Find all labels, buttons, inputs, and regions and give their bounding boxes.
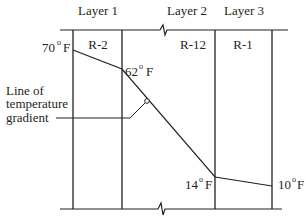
temp-label-62: 62 o F [125, 62, 153, 79]
wall-temperature-gradient-diagram: Layer 1 Layer 2 Layer 3 R-2 R-12 R-1 [0, 0, 306, 222]
callout-line-2: temperature [6, 96, 68, 111]
layer-3-label: Layer 3 [224, 3, 264, 18]
gradient-marker-circle [145, 99, 150, 104]
r-value-layer-1: R-2 [88, 37, 108, 52]
temp-label-14: 14 o F [185, 175, 212, 192]
svg-text:F: F [297, 177, 304, 192]
layer-1-label: Layer 1 [78, 3, 118, 18]
top-boundary-line [60, 25, 288, 35]
svg-text:o: o [292, 175, 296, 184]
svg-text:14: 14 [185, 177, 199, 192]
callout-leader-line [56, 103, 145, 118]
r-value-layer-2: R-12 [180, 37, 206, 52]
svg-text:70: 70 [42, 40, 55, 55]
r-value-layer-3: R-1 [233, 37, 253, 52]
svg-text:F: F [63, 40, 70, 55]
svg-text:62: 62 [125, 64, 138, 79]
temp-label-10: 10 o F [278, 175, 304, 192]
temp-label-70: 70 o F [42, 38, 70, 55]
svg-text:F: F [146, 64, 153, 79]
svg-text:o: o [57, 38, 61, 47]
callout-text: Line of temperature gradient [6, 83, 68, 125]
layer-2-label: Layer 2 [167, 3, 207, 18]
svg-text:F: F [205, 177, 212, 192]
svg-text:o: o [139, 62, 143, 71]
bottom-boundary-line [60, 203, 282, 215]
svg-text:10: 10 [278, 177, 291, 192]
callout-line-3: gradient [6, 110, 49, 125]
layer-boundaries [73, 30, 272, 209]
svg-text:o: o [199, 175, 203, 184]
